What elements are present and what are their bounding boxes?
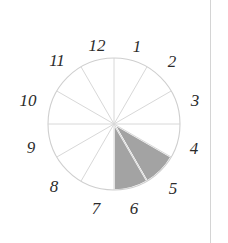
hour-label-2: 2 bbox=[168, 53, 177, 70]
clock-spoke-10 bbox=[57, 91, 114, 124]
clock-spoke-2 bbox=[114, 91, 171, 124]
clock-spoke-8 bbox=[57, 124, 114, 157]
hour-label-6: 6 bbox=[130, 200, 139, 217]
hour-label-4: 4 bbox=[190, 140, 199, 157]
hour-label-7: 7 bbox=[92, 200, 101, 217]
shaded-sectors-group bbox=[114, 124, 171, 190]
hour-label-10: 10 bbox=[20, 92, 37, 109]
right-margin-rule bbox=[210, 0, 211, 243]
hour-label-12: 12 bbox=[89, 37, 106, 54]
clock-spoke-11 bbox=[81, 67, 114, 124]
hour-label-8: 8 bbox=[50, 178, 59, 195]
clock-spoke-7 bbox=[81, 124, 114, 181]
clock-diagram-figure: 123456789101112 bbox=[0, 0, 228, 243]
clock-face-svg bbox=[0, 0, 228, 243]
hour-label-1: 1 bbox=[133, 38, 142, 55]
clock-spoke-1 bbox=[114, 67, 147, 124]
hour-label-5: 5 bbox=[169, 180, 178, 197]
hour-label-11: 11 bbox=[49, 52, 65, 69]
hour-label-3: 3 bbox=[191, 92, 200, 109]
hour-label-9: 9 bbox=[27, 139, 36, 156]
